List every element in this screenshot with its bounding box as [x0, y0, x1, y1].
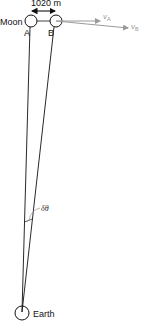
moon-position-a-circle: [25, 15, 37, 27]
moon-earth-diagram: 1020 m Moon A B vA vB δθ Earth: [0, 0, 155, 327]
velocity-b-label: vB: [131, 22, 139, 32]
sightline-b: [22, 27, 54, 312]
velocity-b-arrow: [56, 21, 128, 28]
sightline-a: [22, 27, 30, 312]
angle-label: δθ: [41, 204, 49, 213]
earth-label: Earth: [33, 309, 55, 319]
velocity-a-label: vA: [103, 12, 111, 22]
moon-label: Moon: [0, 17, 23, 27]
distance-label: 1020 m: [31, 0, 61, 8]
angle-leader-line: [29, 208, 40, 220]
angle-arc: [24, 219, 32, 222]
point-a-label: A: [24, 28, 30, 38]
